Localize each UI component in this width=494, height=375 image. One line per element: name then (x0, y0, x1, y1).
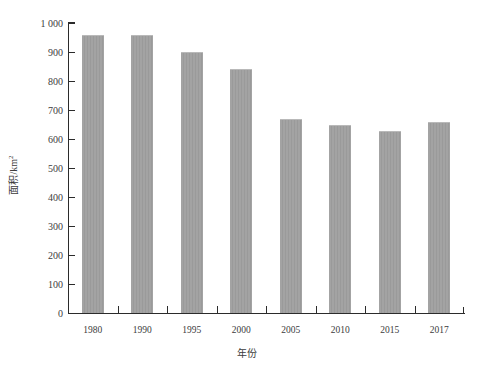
y-axis-title-exponent: 2 (7, 155, 15, 159)
y-tick-label: 600 (48, 134, 63, 145)
y-tick-mark (69, 168, 75, 169)
x-axis-label: 2005 (281, 325, 300, 335)
x-tick-mark (365, 306, 366, 313)
plot-area: 01002003004005006007008009001 000 198019… (68, 23, 464, 313)
x-tick-mark (167, 306, 168, 313)
x-axis-label: 2010 (331, 325, 350, 335)
bar (181, 52, 203, 313)
bar (82, 35, 104, 313)
x-tick-mark (266, 306, 267, 313)
y-tick-mark (69, 81, 75, 82)
y-tick-label: 300 (48, 221, 63, 232)
y-tick-mark (69, 284, 75, 285)
x-tick-mark (415, 306, 416, 313)
bar (428, 122, 450, 313)
y-tick-mark (69, 139, 75, 140)
y-tick-label: 500 (48, 163, 63, 174)
y-tick-label: 400 (48, 192, 63, 203)
bar (329, 125, 351, 313)
y-tick-label: 1 000 (41, 18, 64, 29)
x-axis-label: 2015 (380, 325, 399, 335)
y-tick-label: 200 (48, 250, 63, 261)
x-tick-mark (217, 306, 218, 313)
y-tick-mark (69, 52, 75, 53)
y-tick-mark (69, 226, 75, 227)
x-axis-label: 1990 (133, 325, 152, 335)
y-tick-label: 900 (48, 47, 63, 58)
x-axis-label: 2017 (430, 325, 449, 335)
x-axis-left-cap (68, 307, 69, 313)
y-tick-label: 100 (48, 279, 63, 290)
x-tick-mark (316, 306, 317, 313)
y-tick-label: 0 (58, 308, 63, 319)
x-axis-label: 1980 (83, 325, 102, 335)
x-axis-title: 年份 (0, 345, 494, 360)
x-axis-right-cap (463, 307, 464, 313)
y-tick-mark (69, 23, 75, 24)
x-axis-label: 2000 (232, 325, 251, 335)
y-axis-title-text: 面积/km (8, 159, 19, 195)
y-tick-label: 700 (48, 105, 63, 116)
x-axis-label: 1995 (182, 325, 201, 335)
bar (131, 35, 153, 313)
bar (379, 131, 401, 313)
y-tick-mark (69, 255, 75, 256)
bar (280, 119, 302, 313)
y-tick-mark (69, 110, 75, 111)
y-tick-label: 800 (48, 76, 63, 87)
bar-chart: 面积/km2 01002003004005006007008009001 000… (0, 0, 494, 375)
y-axis-title: 面积/km2 (5, 120, 20, 230)
y-tick-mark (69, 197, 75, 198)
bar (230, 69, 252, 313)
x-tick-mark (118, 306, 119, 313)
